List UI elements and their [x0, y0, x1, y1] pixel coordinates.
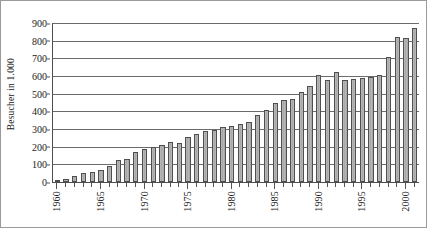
- bar: [299, 92, 304, 182]
- x-axis-tick-mark: [83, 183, 84, 187]
- y-axis-title-text: Besucher in 1.000: [6, 58, 16, 130]
- y-axis-title: Besucher in 1.000: [3, 1, 19, 187]
- bar: [412, 28, 417, 182]
- y-axis-tick-label: 100: [32, 159, 47, 170]
- x-axis-tick-labels: 196019651970197519801985199019952000: [52, 183, 418, 228]
- bar: [368, 77, 373, 182]
- x-axis-tick-mark: [205, 183, 206, 187]
- x-axis-tick-label: 1985: [269, 191, 280, 212]
- x-axis-tick-mark: [292, 183, 293, 187]
- bar: [98, 170, 103, 182]
- y-axis-tick-mark: [47, 129, 50, 130]
- x-axis-tick-label: 1965: [95, 191, 106, 212]
- x-axis-tick-mark: [117, 183, 118, 187]
- x-axis-tick-mark: [178, 183, 179, 187]
- x-axis-tick-mark: [152, 183, 153, 187]
- x-axis-major-tick-mark: [318, 183, 319, 189]
- x-axis-tick-mark: [388, 183, 389, 187]
- x-axis-tick-mark: [109, 183, 110, 187]
- x-axis-tick-mark: [248, 183, 249, 187]
- x-axis-tick-mark: [65, 183, 66, 187]
- bar: [325, 80, 330, 182]
- x-axis-major-tick-mark: [100, 183, 101, 189]
- y-axis-tick-mark: [47, 41, 50, 42]
- bar: [194, 134, 199, 182]
- y-axis-tick-label: 300: [32, 124, 47, 135]
- bar: [212, 130, 217, 182]
- x-axis-tick-mark: [196, 183, 197, 187]
- y-axis-tick-label: 800: [32, 35, 47, 46]
- bar: [177, 143, 182, 182]
- bar: [360, 78, 365, 182]
- y-axis-tick-mark: [47, 147, 50, 148]
- y-axis-tick-label: 200: [32, 141, 47, 152]
- bar: [124, 159, 129, 182]
- plot-area: [52, 23, 419, 183]
- x-axis-tick-mark: [379, 183, 380, 187]
- x-axis-tick-label: 2000: [400, 191, 411, 212]
- y-axis-tick-mark: [47, 94, 50, 95]
- bar: [185, 137, 190, 182]
- x-axis-tick-mark: [300, 183, 301, 187]
- y-axis-tick-label: 0: [42, 177, 47, 188]
- x-axis-major-tick-mark: [361, 183, 362, 189]
- bar: [116, 160, 121, 182]
- bar: [203, 131, 208, 182]
- x-axis-major-tick-mark: [56, 183, 57, 189]
- bar: [334, 72, 339, 182]
- y-axis-tick-label: 600: [32, 71, 47, 82]
- bar: [238, 124, 243, 182]
- x-axis-tick-mark: [74, 183, 75, 187]
- x-axis-tick-mark: [335, 183, 336, 187]
- bar: [107, 166, 112, 182]
- x-axis-major-tick-mark: [187, 183, 188, 189]
- bar: [220, 127, 225, 182]
- bar: [133, 152, 138, 182]
- bar: [151, 147, 156, 182]
- x-axis-tick-label: 1960: [51, 191, 62, 212]
- x-axis-major-tick-mark: [144, 183, 145, 189]
- y-axis-tick-mark: [47, 58, 50, 59]
- x-axis-tick-mark: [309, 183, 310, 187]
- bar: [229, 126, 234, 182]
- bar: [351, 79, 356, 182]
- bar: [159, 145, 164, 182]
- x-axis-tick-label: 1990: [313, 191, 324, 212]
- x-axis-tick-mark: [283, 183, 284, 187]
- y-axis-tick-mark: [47, 111, 50, 112]
- x-axis-tick-mark: [135, 183, 136, 187]
- bar: [168, 142, 173, 182]
- bar: [377, 75, 382, 182]
- y-axis-tick-labels: 0100200300400500600700800900: [19, 1, 49, 228]
- bar: [264, 110, 269, 182]
- x-axis-tick-label: 1975: [182, 191, 193, 212]
- bar: [273, 103, 278, 182]
- x-axis-tick-mark: [213, 183, 214, 187]
- x-axis-tick-mark: [353, 183, 354, 187]
- y-axis-tick-mark: [47, 23, 50, 24]
- x-axis-major-tick-mark: [231, 183, 232, 189]
- x-axis-tick-label: 1980: [226, 191, 237, 212]
- x-axis-tick-label: 1970: [139, 191, 150, 212]
- bar: [63, 179, 68, 182]
- x-axis-tick-mark: [126, 183, 127, 187]
- bar: [255, 115, 260, 182]
- chart-figure: Besucher in 1.000 0100200300400500600700…: [0, 0, 427, 228]
- y-axis-tick-mark: [47, 164, 50, 165]
- x-axis-major-tick-mark: [405, 183, 406, 189]
- x-axis-tick-mark: [91, 183, 92, 187]
- bar-series: [53, 23, 419, 182]
- y-axis-tick-label: 900: [32, 18, 47, 29]
- y-axis-tick-label: 500: [32, 88, 47, 99]
- bar: [307, 86, 312, 182]
- bar: [246, 122, 251, 182]
- x-axis-tick-mark: [414, 183, 415, 187]
- y-axis-tick-label: 700: [32, 53, 47, 64]
- x-axis-major-tick-mark: [274, 183, 275, 189]
- x-axis-tick-mark: [266, 183, 267, 187]
- x-axis-tick-label: 1995: [356, 191, 367, 212]
- x-axis-tick-mark: [222, 183, 223, 187]
- bar: [290, 99, 295, 182]
- bar: [55, 180, 60, 182]
- bar: [90, 172, 95, 182]
